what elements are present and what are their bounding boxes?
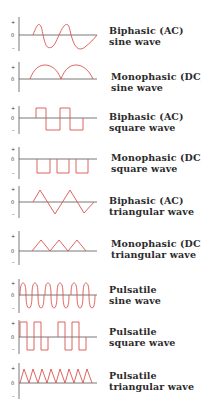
svg-text:–: – xyxy=(12,127,15,133)
monophasic-triangular-wave-plot: + 0 – xyxy=(0,229,104,270)
svg-text:0: 0 xyxy=(11,292,14,298)
svg-text:+: + xyxy=(11,146,15,152)
svg-text:+: + xyxy=(11,105,15,111)
svg-text:+: + xyxy=(11,64,15,70)
waveform-label: Monophasic (DC) square wave xyxy=(111,152,201,174)
waveform-row-pulsatile-sine: + 0 – Pulsatile sine wave xyxy=(0,279,201,320)
pulsatile-square-wave-plot: + 0 – xyxy=(0,320,104,361)
waveform-label: Biphasic (AC) triangular wave xyxy=(109,195,194,217)
svg-text:–: – xyxy=(12,45,15,51)
biphasic-sine-wave-plot: + 0 – xyxy=(0,13,104,54)
waveform-row-monophasic-sine: + 0 Monophasic (DC) sine wave xyxy=(0,60,201,101)
svg-text:–: – xyxy=(12,170,15,176)
svg-text:–: – xyxy=(12,393,15,399)
biphasic-square-wave-plot: + 0 – xyxy=(0,101,104,142)
svg-text:–: – xyxy=(12,259,15,265)
pulsatile-triangular-wave-plot: + 0 – xyxy=(0,361,104,401)
waveform-label: Pulsatile sine wave xyxy=(109,284,161,306)
svg-text:–: – xyxy=(12,305,15,311)
svg-text:–: – xyxy=(12,346,15,352)
waveform-label: Biphasic (AC) square wave xyxy=(109,111,184,133)
waveform-row-pulsatile-triangular: + 0 – Pulsatile triangular wave xyxy=(0,361,201,401)
svg-text:–: – xyxy=(12,211,15,217)
waveform-row-monophasic-triangular: + 0 – Monophasic (DC) triangular wave xyxy=(0,229,201,270)
pulsatile-sine-wave-plot: + 0 – xyxy=(0,279,104,320)
svg-text:+: + xyxy=(11,233,15,239)
svg-text:+: + xyxy=(11,19,15,25)
waveform-row-biphasic-sine: + 0 – Biphasic (AC) sine wave xyxy=(0,13,201,54)
monophasic-square-wave-plot: + 0 – xyxy=(0,142,104,183)
waveform-row-monophasic-square: + 0 – Monophasic (DC) square wave xyxy=(0,142,201,183)
waveform-label: Monophasic (DC) sine wave xyxy=(111,71,201,93)
svg-text:0: 0 xyxy=(11,199,14,205)
biphasic-triangular-wave-plot: + 0 – xyxy=(0,183,104,224)
svg-text:0: 0 xyxy=(11,32,14,38)
svg-text:+: + xyxy=(11,280,15,286)
svg-text:0: 0 xyxy=(11,76,14,82)
svg-text:0: 0 xyxy=(11,380,14,386)
waveform-row-pulsatile-square: + 0 – Pulsatile square wave xyxy=(0,320,201,361)
svg-text:0: 0 xyxy=(11,248,14,254)
svg-text:+: + xyxy=(11,186,15,192)
svg-text:0: 0 xyxy=(11,334,14,340)
waveform-label: Biphasic (AC) sine wave xyxy=(109,25,184,47)
svg-text:+: + xyxy=(11,320,15,326)
waveform-label: Monophasic (DC) triangular wave xyxy=(111,238,201,260)
waveform-label: Pulsatile triangular wave xyxy=(109,370,194,392)
svg-text:0: 0 xyxy=(11,156,14,162)
waveform-row-biphasic-triangular: + 0 – Biphasic (AC) triangular wave xyxy=(0,183,201,224)
svg-text:+: + xyxy=(11,365,15,371)
svg-text:0: 0 xyxy=(11,115,14,121)
monophasic-sine-wave-plot: + 0 xyxy=(0,60,104,101)
waveform-label: Pulsatile square wave xyxy=(109,326,175,348)
waveform-row-biphasic-square: + 0 – Biphasic (AC) square wave xyxy=(0,101,201,142)
